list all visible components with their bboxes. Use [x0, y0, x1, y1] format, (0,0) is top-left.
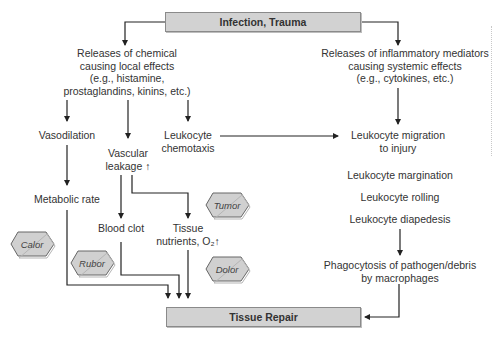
- leukocyte-migration-label: Leukocyte migration to injury: [343, 129, 453, 154]
- calor-hexagon: Calor: [10, 231, 56, 257]
- leukocyte-chemotaxis-label: Leukocyte chemotaxis: [158, 129, 218, 154]
- phagocytosis-label: Phagocytosis of pathogen/debris by macro…: [320, 259, 480, 284]
- calor-label: Calor: [10, 231, 54, 257]
- tumor-hexagon: Tumor: [205, 192, 251, 218]
- vascular-leakage-label: Vascular leakage ↑: [103, 147, 153, 172]
- tissue-repair-label: Tissue Repair: [229, 311, 298, 323]
- leukocyte-margination-label: Leukocyte margination: [340, 169, 460, 182]
- vasodilation-label: Vasodilation: [27, 129, 107, 142]
- dolor-label: Dolor: [205, 256, 249, 282]
- rubor-hexagon: Rubor: [70, 250, 116, 276]
- dolor-hexagon: Dolor: [205, 256, 251, 282]
- metabolic-rate-label: Metabolic rate: [27, 193, 107, 206]
- tissue-repair-box: Tissue Repair: [166, 307, 361, 327]
- tissue-nutrients-label: Tissue nutrients, O₂↑: [153, 222, 223, 247]
- rubor-label: Rubor: [70, 250, 114, 276]
- blood-clot-label: Blood clot: [91, 222, 151, 235]
- leukocyte-diapedesis-label: Leukocyte diapedesis: [340, 213, 460, 226]
- infection-trauma-label: Infection, Trauma: [220, 16, 307, 28]
- local-release-text: Releases of chemical causing local effec…: [52, 47, 202, 97]
- tumor-label: Tumor: [205, 192, 249, 218]
- systemic-release-text: Releases of inflammatory mediators causi…: [320, 47, 490, 85]
- page-edge-strip: [491, 26, 494, 156]
- infection-trauma-box: Infection, Trauma: [165, 12, 361, 32]
- leukocyte-rolling-label: Leukocyte rolling: [340, 191, 460, 204]
